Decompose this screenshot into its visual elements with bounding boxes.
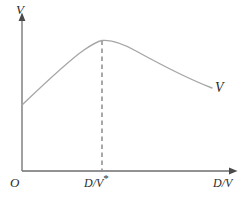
x-axis — [22, 168, 238, 175]
origin-label: O — [10, 176, 19, 189]
chart-figure: O V D/V D/V* V — [0, 0, 252, 203]
y-axis-label: V — [16, 3, 24, 16]
x-axis-label: D/V — [213, 177, 232, 189]
y-axis — [19, 13, 26, 172]
tick-label-peak-star: * — [103, 172, 109, 184]
x-axis-tick-label-peak: D/V* — [84, 177, 109, 189]
curve-label: V — [215, 81, 224, 95]
chart-plot-area — [0, 0, 252, 203]
tick-label-peak-base: D/V — [84, 176, 103, 190]
curve-v — [22, 40, 212, 105]
x-axis-arrowhead — [229, 168, 238, 175]
